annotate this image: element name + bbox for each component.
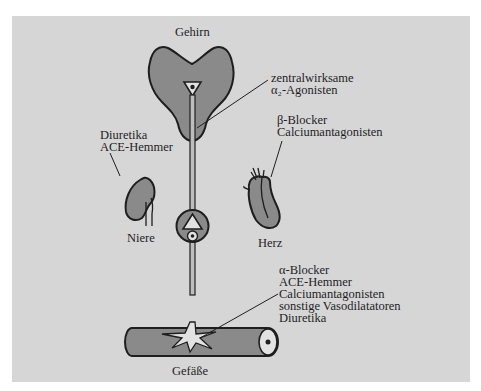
annotation-line: Diuretika [279,312,401,324]
kidney-annotation: Diuretika ACE-Hemmer [100,129,173,153]
nerve-fiber [190,95,195,295]
ganglion [177,210,209,242]
diagram-drawing [0,0,481,391]
vessel-annotation: α-Blocker ACE-Hemmer Calciumantagonisten… [279,264,401,324]
vessel-label: Gefäße [172,365,208,377]
annotation-line: ACE-Hemmer [100,141,173,153]
kidney-label: Niere [127,232,155,244]
annotation-line: Calciumantagonisten [277,126,383,138]
heart-shape [244,168,280,228]
heart-label: Herz [258,237,282,249]
kidney-shape [126,178,155,226]
brain-label: Gehirn [175,26,210,38]
annotation-line: α₂-Agonisten [271,84,354,96]
brain-annotation: zentralwirksame α₂-Agonisten [271,72,354,96]
vessel-shape [125,322,278,356]
heart-annotation: β-Blocker Calciumantagonisten [277,114,383,138]
